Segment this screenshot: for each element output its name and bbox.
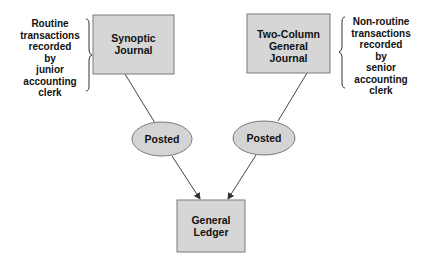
edge-synoptic-to-posted: [125, 74, 155, 123]
right-annotation-line2: transactions: [351, 28, 411, 39]
two-column-general-journal-box: Two-Column General Journal: [247, 14, 330, 73]
synoptic-journal-box: Synoptic Journal: [93, 15, 174, 74]
left-annotation-line2: transactions: [20, 30, 80, 41]
two-column-label-line2: General: [269, 40, 308, 52]
left-brace-icon: [86, 19, 92, 91]
posted-left-label: Posted: [144, 133, 179, 145]
right-annotation-non-routine: Non-routine transactions recorded by sen…: [351, 16, 411, 96]
edge-posted-left-to-ledger-arrow: [172, 156, 200, 199]
right-annotation-line5: senior: [366, 62, 396, 73]
left-annotation-line1: Routine: [31, 18, 69, 29]
synoptic-journal-label-line1: Synoptic: [111, 32, 155, 44]
right-annotation-line4: by: [375, 51, 387, 62]
right-annotation-line3: recorded: [360, 39, 403, 50]
two-column-label-line1: Two-Column: [257, 28, 320, 40]
edge-twocolumn-to-posted: [278, 73, 307, 121]
edge-posted-right-to-ledger-arrow: [228, 155, 256, 199]
left-annotation-line3: recorded: [29, 41, 72, 52]
left-annotation-line5: junior: [35, 64, 64, 75]
right-annotation-line6: accounting: [354, 74, 407, 85]
posted-ellipse-right: Posted: [233, 121, 295, 155]
general-ledger-label-line2: Ledger: [193, 226, 228, 238]
left-annotation-routine: Routine transactions recorded by junior …: [20, 18, 80, 98]
right-annotation-line7: clerk: [369, 85, 393, 96]
posted-right-label: Posted: [246, 132, 281, 144]
two-column-label-line3: Journal: [270, 52, 308, 64]
right-brace-icon: [339, 17, 345, 88]
left-annotation-line4: by: [44, 53, 56, 64]
left-annotation-line7: clerk: [38, 87, 62, 98]
journal-posting-diagram: Synoptic Journal Two-Column General Jour…: [0, 0, 428, 265]
synoptic-journal-label-line2: Journal: [115, 44, 153, 56]
right-annotation-line1: Non-routine: [353, 16, 410, 27]
general-ledger-label-line1: General: [191, 214, 230, 226]
posted-ellipse-left: Posted: [132, 122, 192, 156]
general-ledger-box: General Ledger: [177, 200, 245, 252]
left-annotation-line6: accounting: [23, 76, 76, 87]
